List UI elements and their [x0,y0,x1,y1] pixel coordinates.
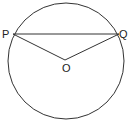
radius-op [13,34,65,60]
radius-oq [65,34,119,60]
label-p: P [2,28,9,40]
circle-diagram: P Q O [0,0,130,121]
circle [8,3,124,119]
label-q: Q [119,28,128,40]
label-o: O [62,62,71,74]
